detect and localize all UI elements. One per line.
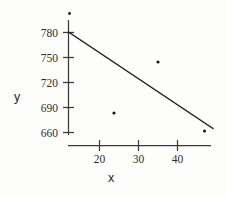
- scatter-plot-figure: 780 750 720 690 660 20 30 40 y: [0, 0, 227, 197]
- y-axis-title: y: [14, 90, 21, 104]
- y-tick-label-750: 750: [41, 52, 59, 64]
- data-points-group: [68, 12, 206, 132]
- x-tick-label-40: 40: [172, 153, 184, 165]
- x-axis-title: x: [108, 171, 115, 185]
- y-tick-label-720: 720: [41, 77, 59, 89]
- data-point: [156, 60, 159, 63]
- x-axis-tick-labels: 20 30 40: [94, 153, 184, 165]
- x-tick-label-30: 30: [133, 153, 145, 165]
- x-tick-label-20: 20: [94, 153, 106, 165]
- data-point: [203, 130, 206, 133]
- y-tick-label-780: 780: [41, 27, 59, 39]
- plot-canvas: 780 750 720 690 660 20 30 40 y: [0, 0, 227, 197]
- y-tick-label-690: 690: [41, 102, 59, 114]
- fitted-regression-line: [69, 32, 214, 129]
- y-axis-tick-labels: 780 750 720 690 660: [41, 27, 59, 139]
- y-tick-label-660: 660: [41, 127, 59, 139]
- data-point: [68, 12, 71, 15]
- data-point: [112, 111, 115, 114]
